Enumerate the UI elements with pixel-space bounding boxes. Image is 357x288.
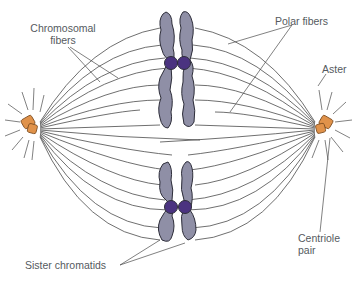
centromere-upper-left — [165, 57, 178, 70]
chromosome-lower — [158, 162, 196, 242]
label-chromosomal-fibers-line1: Chromosomal — [30, 22, 96, 34]
label-aster: Aster — [322, 63, 347, 75]
centriole-pair-right — [315, 115, 334, 134]
label-centriole-pair-line1: Centriole — [298, 232, 340, 244]
centromere-lower-right — [179, 201, 192, 214]
label-centriole-pair-line2: pair — [298, 244, 340, 256]
centriole-pair-left — [20, 115, 38, 134]
chromosome-upper — [159, 12, 195, 128]
mitotic-spindle-diagram: Chromosomal fibers Polar fibers Aster Ce… — [0, 0, 357, 288]
label-sister-chromatids: Sister chromatids — [25, 259, 106, 271]
centromere-upper-right — [178, 57, 191, 70]
chromatid-upper-left — [159, 12, 175, 128]
centromere-lower-left — [165, 201, 178, 214]
leader-lines — [68, 25, 330, 265]
label-chromosomal-fibers: Chromosomal fibers — [30, 22, 96, 46]
label-chromosomal-fibers-line2: fibers — [30, 34, 96, 46]
label-polar-fibers: Polar fibers — [275, 15, 328, 27]
label-centriole-pair: Centriole pair — [298, 232, 340, 256]
